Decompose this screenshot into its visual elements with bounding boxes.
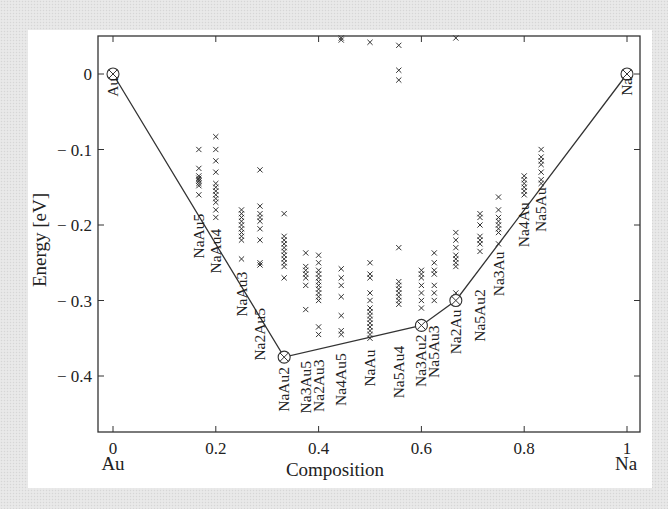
phase-label: Na5Au bbox=[532, 187, 549, 232]
cross-marker bbox=[396, 245, 401, 250]
x-tick-label: 0.6 bbox=[411, 439, 432, 458]
figure-panel: 00.20.40.60.81 0− 0.1− 0.2− 0.3− 0.4 AuN… bbox=[28, 30, 652, 488]
cross-marker bbox=[257, 226, 262, 231]
cross-marker bbox=[432, 290, 437, 295]
cross-marker bbox=[282, 264, 287, 269]
y-tick-label: 0 bbox=[84, 65, 93, 84]
cross-marker bbox=[367, 260, 372, 265]
cross-marker bbox=[477, 249, 482, 254]
phase-label: NaAu4 bbox=[207, 229, 224, 274]
cross-marker bbox=[257, 238, 262, 243]
cross-marker bbox=[282, 275, 287, 280]
cross-marker bbox=[213, 147, 218, 152]
y-tick-label: − 0.1 bbox=[57, 141, 92, 160]
cross-marker bbox=[367, 275, 372, 280]
cross-marker bbox=[432, 298, 437, 303]
cross-marker bbox=[303, 307, 308, 312]
phase-label: NaAu3 bbox=[233, 272, 250, 317]
cross-marker bbox=[419, 305, 424, 310]
phase-label: Au bbox=[104, 78, 121, 97]
x-end-label-au: Au bbox=[101, 453, 125, 474]
y-tick-label: − 0.3 bbox=[57, 292, 92, 311]
cross-marker bbox=[316, 324, 321, 329]
cross-marker bbox=[453, 238, 458, 243]
cross-marker bbox=[339, 266, 344, 271]
cross-marker bbox=[339, 294, 344, 299]
cross-marker bbox=[213, 170, 218, 175]
cross-marker bbox=[257, 167, 262, 172]
phase-label: Na2Au3 bbox=[310, 359, 327, 412]
phase-label: Na bbox=[618, 78, 635, 96]
phase-label: Na5Au3 bbox=[425, 325, 442, 378]
phase-label: Na2Au5 bbox=[251, 308, 268, 361]
cross-marker bbox=[453, 230, 458, 235]
cross-marker bbox=[396, 77, 401, 82]
cross-marker bbox=[539, 162, 544, 167]
y-tick-label: − 0.2 bbox=[57, 216, 92, 235]
cross-marker bbox=[213, 207, 218, 212]
cross-marker bbox=[419, 283, 424, 288]
y-axis-title: Energy [eV] bbox=[29, 193, 50, 287]
phase-labels: AuNaAu5NaAu4NaAu3Na2Au5NaAu2Na3Au5Na2Au3… bbox=[104, 78, 635, 414]
cross-marker bbox=[496, 207, 501, 212]
x-axis-ticks: 00.20.40.60.81 bbox=[109, 36, 632, 458]
cross-marker bbox=[196, 147, 201, 152]
cross-marker bbox=[239, 256, 244, 261]
cross-marker bbox=[339, 313, 344, 318]
cross-marker bbox=[339, 283, 344, 288]
cross-marker bbox=[316, 253, 321, 258]
cross-marker bbox=[213, 200, 218, 205]
phase-label: Na2Au bbox=[447, 309, 464, 354]
x-end-label-na: Na bbox=[615, 453, 638, 474]
x-tick-label: 0.4 bbox=[308, 439, 330, 458]
x-tick-label: 0.2 bbox=[205, 439, 226, 458]
cross-marker bbox=[339, 332, 344, 337]
cross-marker bbox=[316, 332, 321, 337]
phase-label: NaAu bbox=[361, 349, 378, 386]
convex-hull-chart: 00.20.40.60.81 0− 0.1− 0.2− 0.3− 0.4 AuN… bbox=[28, 30, 652, 488]
cross-marker bbox=[367, 298, 372, 303]
cross-marker bbox=[453, 264, 458, 269]
phase-label: NaAu2 bbox=[275, 367, 292, 412]
phase-label: NaAu5 bbox=[190, 213, 207, 258]
cross-marker bbox=[419, 275, 424, 280]
cross-marker bbox=[367, 290, 372, 295]
cross-marker bbox=[432, 271, 437, 276]
x-tick-label: 0.8 bbox=[514, 439, 535, 458]
cross-marker bbox=[213, 158, 218, 163]
hull-vertex-marker bbox=[278, 351, 290, 363]
cross-marker bbox=[213, 215, 218, 220]
cross-marker bbox=[396, 68, 401, 73]
hull-vertex-marker bbox=[450, 295, 462, 307]
cross-marker bbox=[257, 219, 262, 224]
cross-marker bbox=[477, 222, 482, 227]
cross-marker bbox=[432, 250, 437, 255]
cross-marker bbox=[303, 250, 308, 255]
phase-label: Na4Au5 bbox=[332, 353, 349, 406]
cross-marker bbox=[477, 215, 482, 220]
x-axis-title: Composition bbox=[286, 459, 385, 480]
cross-marker bbox=[367, 40, 372, 45]
cross-marker bbox=[282, 211, 287, 216]
cross-marker bbox=[432, 260, 437, 265]
phase-label: Na4Au bbox=[515, 202, 532, 247]
cross-marker bbox=[522, 192, 527, 197]
cross-marker bbox=[496, 230, 501, 235]
phase-label: Na5Au2 bbox=[471, 289, 488, 342]
cross-marker bbox=[396, 43, 401, 48]
cross-marker bbox=[539, 170, 544, 175]
cross-marker bbox=[477, 241, 482, 246]
cross-marker bbox=[303, 283, 308, 288]
cross-marker bbox=[419, 290, 424, 295]
phase-label: Na3Au bbox=[490, 251, 507, 296]
cross-marker bbox=[196, 166, 201, 171]
cross-marker bbox=[539, 147, 544, 152]
cross-marker bbox=[303, 275, 308, 280]
cross-marker bbox=[257, 204, 262, 209]
y-tick-label: − 0.4 bbox=[57, 367, 93, 386]
cross-marker bbox=[196, 192, 201, 197]
cross-marker bbox=[419, 298, 424, 303]
cross-marker bbox=[316, 298, 321, 303]
cross-marker bbox=[432, 283, 437, 288]
cross-marker bbox=[213, 134, 218, 139]
